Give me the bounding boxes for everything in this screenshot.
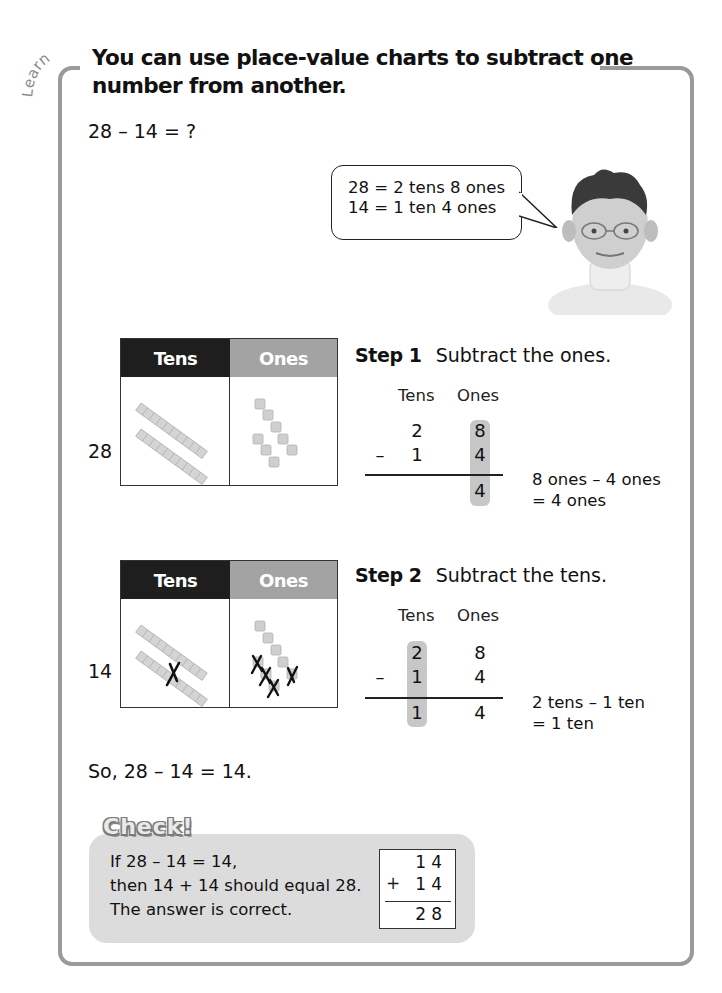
step-2-rule	[365, 697, 503, 699]
step-2-explain-line-1: 2 tens – 1 ten	[532, 692, 645, 713]
step-1-tens-col-header: Tens	[398, 386, 434, 405]
ones-cubes-crossed-icon	[230, 599, 338, 707]
check-text: If 28 – 14 = 14, then 14 + 14 should equ…	[110, 850, 362, 922]
step-2-title: Step 2Subtract the tens.	[355, 564, 607, 586]
chart-1-ones-column	[230, 377, 337, 485]
place-value-chart-14: Tens Ones	[120, 560, 338, 708]
svg-text:Learn: Learn	[22, 49, 54, 98]
chart-2-number-label: 14	[88, 660, 112, 682]
chart-2-ones-column	[230, 599, 337, 707]
step-2-top-ones: 8	[470, 642, 490, 663]
check-addend-1: 14	[415, 852, 447, 872]
step-1-ones-col-header: Ones	[457, 386, 499, 405]
step-1-explain-line-1: 8 ones – 4 ones	[532, 469, 661, 490]
step-1-title: Step 1Subtract the ones.	[355, 344, 611, 366]
check-addition-box: 14 + 14 28	[379, 849, 456, 929]
step-2-minus-sign: –	[370, 666, 390, 687]
step-2-result-ones: 4	[470, 702, 490, 723]
check-sum: 28	[415, 904, 447, 924]
check-line-1: If 28 – 14 = 14,	[110, 850, 362, 874]
conclusion-text: So, 28 – 14 = 14.	[88, 760, 252, 782]
step-1-explanation: 8 ones – 4 ones = 4 ones	[532, 469, 661, 511]
step-2-tens-col-header: Tens	[398, 606, 434, 625]
speech-bubble: 28 = 2 tens 8 ones 14 = 1 ten 4 ones	[331, 165, 522, 240]
step-2-result-tens: 1	[407, 702, 427, 723]
chart-2-tens-header: Tens	[121, 561, 230, 599]
step-1-instruction: Subtract the ones.	[436, 344, 612, 366]
check-addend-2: 14	[415, 874, 447, 894]
step-1-top-tens: 2	[407, 420, 427, 441]
check-title: Check!	[103, 814, 193, 839]
bubble-line-1: 28 = 2 tens 8 ones	[348, 178, 521, 198]
check-plus-sign: +	[386, 873, 400, 893]
step-2-top-tens: 2	[407, 642, 427, 663]
chart-2-tens-column	[121, 599, 230, 707]
chart-1-number-label: 28	[88, 440, 112, 462]
step-2-bottom-ones: 4	[470, 666, 490, 687]
check-line-3: The answer is correct.	[110, 898, 362, 922]
tens-rods-icon	[121, 377, 229, 485]
chart-1-ones-header: Ones	[230, 339, 337, 377]
chart-1-tens-column	[121, 377, 230, 485]
lesson-title: You can use place-value charts to subtra…	[92, 44, 652, 100]
step-2-explain-line-2: = 1 ten	[532, 713, 645, 734]
tens-rods-crossed-icon	[121, 599, 229, 707]
chart-1-tens-header: Tens	[121, 339, 230, 377]
check-line-2: then 14 + 14 should equal 28.	[110, 874, 362, 898]
step-1-rule	[365, 474, 503, 476]
step-1-bottom-ones: 4	[470, 444, 490, 465]
problem-equation: 28 – 14 = ?	[88, 120, 196, 142]
step-2-instruction: Subtract the tens.	[436, 564, 607, 586]
chart-2-ones-header: Ones	[230, 561, 337, 599]
step-1-bottom-tens: 1	[407, 444, 427, 465]
step-1-result-ones: 4	[470, 480, 490, 501]
step-2-explanation: 2 tens – 1 ten = 1 ten	[532, 692, 645, 734]
step-2-bottom-tens: 1	[407, 666, 427, 687]
bubble-line-2: 14 = 1 ten 4 ones	[348, 198, 521, 218]
step-1-explain-line-2: = 4 ones	[532, 490, 661, 511]
place-value-chart-28: Tens Ones	[120, 338, 338, 486]
step-1-top-ones: 8	[470, 420, 490, 441]
step-1-label: Step 1	[355, 344, 422, 366]
step-2-label: Step 2	[355, 564, 422, 586]
step-1-minus-sign: –	[370, 444, 390, 465]
boy-character-illustration	[540, 165, 675, 315]
step-2-ones-col-header: Ones	[457, 606, 499, 625]
ones-cubes-icon	[230, 377, 338, 485]
check-sum-rule	[385, 901, 451, 902]
